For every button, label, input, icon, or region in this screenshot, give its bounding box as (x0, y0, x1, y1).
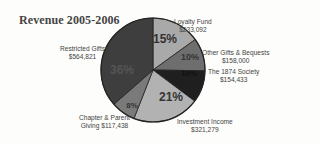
label-loyalty: Loyalty Fund $233,092 (174, 18, 212, 34)
label-society-name: The 1874 Society (208, 68, 259, 76)
label-chapter-name2: Giving (81, 122, 100, 129)
label-restricted: Restricted Gifts $564,821 (60, 45, 105, 61)
label-restricted-name: Restricted Gifts (60, 45, 105, 53)
label-society-value: $154,433 (208, 76, 259, 84)
label-other-name: Other Gifts & Bequests (202, 49, 269, 57)
label-investment-name: Investment Income (177, 118, 233, 126)
label-other: Other Gifts & Bequests $158,000 (202, 49, 269, 65)
pct-restricted: 36% (110, 63, 134, 77)
pct-loyalty: 15% (153, 32, 177, 46)
label-loyalty-name: Loyalty Fund (174, 18, 212, 26)
pct-society: 10% (181, 69, 197, 78)
label-chapter-value-line: Giving $117,438 (79, 122, 130, 130)
label-other-value: $158,000 (202, 57, 269, 65)
pct-investment: 21% (159, 90, 183, 104)
label-chapter: Chapter & Parent Giving $117,438 (79, 114, 130, 130)
label-investment-value: $321,279 (177, 126, 233, 134)
pct-chapter: 8% (126, 101, 138, 110)
label-chapter-value: $117,438 (101, 122, 128, 129)
label-chapter-name: Chapter & Parent (79, 114, 130, 122)
label-investment: Investment Income $321,279 (177, 118, 233, 134)
pct-other: 10% (181, 52, 199, 62)
label-society: The 1874 Society $154,433 (208, 68, 259, 84)
label-restricted-value: $564,821 (60, 53, 105, 61)
label-loyalty-value: $233,092 (174, 26, 212, 34)
